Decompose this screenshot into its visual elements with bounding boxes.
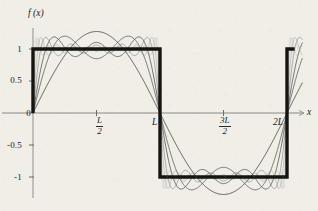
y-tick-label-neg0p5: -0.5 [7, 141, 22, 150]
x-tick-label-2L: 2L [273, 118, 283, 128]
x-tick-label-L-over-2: L 2 [96, 116, 103, 136]
x-tick-label-L: L [152, 118, 157, 128]
fraction-L-over-2: L 2 [96, 116, 103, 136]
y-tick-label-1: 1 [17, 45, 22, 54]
y-tick-label-0: 0 [26, 109, 31, 118]
y-tick-label-neg1: -1 [14, 173, 22, 182]
y-axis-label: f (x) [28, 9, 44, 19]
fourier-square-wave-plot [0, 0, 318, 211]
figure-root: 1 0.5 0 -0.5 -1 f (x) L 2 L 3L 2 2L x [0, 0, 318, 211]
fraction-3L-over-2: 3L 2 [219, 116, 231, 136]
x-axis-label: x [307, 108, 311, 118]
x-tick-label-3L-over-2: 3L 2 [219, 116, 231, 136]
y-tick-label-0p5: 0.5 [10, 76, 22, 85]
